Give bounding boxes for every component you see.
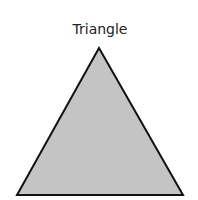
triangle-shape <box>0 0 198 200</box>
triangle-polygon <box>17 48 183 195</box>
